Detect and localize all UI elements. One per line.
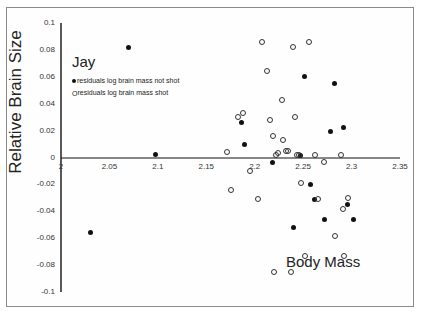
x-tick-label: 2.35 [385,162,415,171]
filled-circle-icon [72,79,76,83]
data-point [247,168,253,174]
x-tick-label: 2.3 [337,162,367,171]
data-point [351,217,356,222]
legend-entry-shot: Oresiduals log brain mass shot [72,89,168,97]
y-tick-label: 0.02 [25,126,55,135]
x-tick-label: 2.2 [240,162,270,171]
data-point [332,233,338,239]
data-point [267,117,273,123]
x-tick-label: 2.25 [288,162,318,171]
y-tick-label: -0.04 [25,206,55,215]
data-point [341,253,347,259]
scatter-plot: Relative Brain Size Body Mass Jay residu… [0,0,421,316]
data-point [322,217,327,222]
legend-label-shot: residuals log brain mass shot [77,89,168,96]
data-point [279,97,285,103]
data-point [228,187,234,193]
x-tick-label: 2.15 [191,162,221,171]
y-tick-label: 0.1 [25,18,55,27]
data-point [255,196,261,202]
y-tick-label: 0 [25,153,55,162]
data-point [239,120,244,125]
data-point [88,230,93,235]
data-point [291,225,296,230]
y-tick-label: 0.08 [25,45,55,54]
y-tick-label: -0.1 [25,287,55,296]
x-tick-label: 2 [46,162,76,171]
y-tick-label: -0.06 [25,233,55,242]
data-point [332,81,337,86]
data-point [302,74,307,79]
x-tick-label: 2.05 [94,162,124,171]
data-point [306,39,312,45]
data-point [271,269,277,275]
y-tick-label: 0.04 [25,99,55,108]
data-point [340,206,346,212]
y-tick-label: 0.06 [25,72,55,81]
x-tick-label: 2.1 [143,162,173,171]
y-axis-label: Relative Brain Size [6,2,26,202]
data-point [242,142,247,147]
x-axis-label: Body Mass [286,253,360,270]
data-point [315,196,321,202]
data-point [302,253,308,259]
y-tick-label: -0.08 [25,260,55,269]
chart-title: Jay [72,53,95,70]
data-point [280,137,286,143]
legend-label-not-shot: residuals log brain mass not shot [77,77,179,84]
data-point [224,149,230,155]
data-point [345,195,351,201]
data-point [288,269,294,275]
legend-entry-not-shot: residuals log brain mass not shot [72,77,179,84]
y-tick-label: -0.02 [25,179,55,188]
